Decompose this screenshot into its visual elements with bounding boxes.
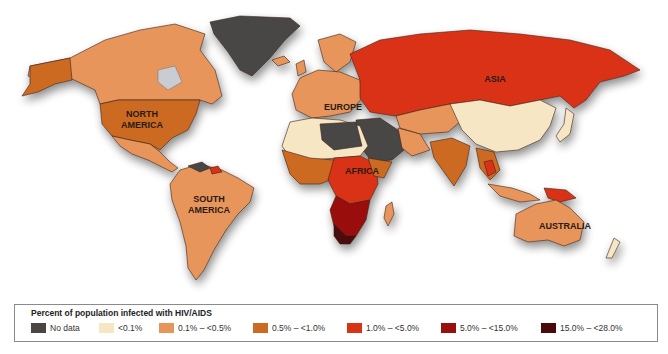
- legend-item-5-0-15-0: 5.0% – <15.0%: [441, 323, 541, 333]
- label-north-america-line2: AMERICA: [121, 120, 163, 130]
- legend-items: No data <0.1% 0.1% – <0.5% 0.5% – <1.0% …: [31, 323, 641, 333]
- papua-region: [544, 188, 576, 202]
- label-south-america-line1: SOUTH: [193, 194, 225, 204]
- legend-item-0-1-0-5: 0.1% – <0.5%: [159, 323, 253, 333]
- scandinavia-region: [318, 34, 356, 72]
- world-map: NORTH AMERICA SOUTH AMERICA EUROPE AFRIC…: [0, 0, 668, 300]
- legend-label: 5.0% – <15.0%: [460, 323, 518, 333]
- iceland-region: [272, 56, 290, 66]
- legend-label: 15.0% – <28.0%: [560, 323, 623, 333]
- map-legend: Percent of population infected with HIV/…: [14, 304, 658, 342]
- legend-label: No data: [50, 323, 80, 333]
- label-australia: AUSTRALIA: [539, 221, 591, 231]
- legend-label: 0.5% – <1.0%: [272, 323, 325, 333]
- label-asia: ASIA: [484, 74, 506, 84]
- label-europe: EUROPE: [324, 102, 362, 112]
- greenland-region: [210, 16, 300, 76]
- legend-label: <0.1%: [118, 323, 142, 333]
- japan-region: [556, 108, 574, 142]
- legend-swatch: [253, 323, 268, 333]
- legend-swatch: [441, 323, 456, 333]
- label-africa: AFRICA: [345, 166, 379, 176]
- legend-label: 0.1% – <0.5%: [178, 323, 231, 333]
- uk-region: [296, 60, 306, 76]
- label-south-america-line2: AMERICA: [188, 205, 230, 215]
- south-america-region: [170, 164, 254, 280]
- madagascar-region: [384, 202, 394, 226]
- legend-swatch: [31, 323, 46, 333]
- legend-title: Percent of population infected with HIV/…: [31, 308, 212, 318]
- legend-item-1-0-5-0: 1.0% – <5.0%: [347, 323, 441, 333]
- label-north-america-line1: NORTH: [126, 109, 158, 119]
- legend-swatch: [347, 323, 362, 333]
- legend-item-lt-0-1: <0.1%: [99, 323, 159, 333]
- new-zealand-region: [606, 238, 620, 258]
- legend-label: 1.0% – <5.0%: [366, 323, 419, 333]
- legend-item-15-0-28-0: 15.0% – <28.0%: [541, 323, 641, 333]
- legend-item-no-data: No data: [31, 323, 99, 333]
- india-region: [430, 138, 470, 186]
- legend-item-0-5-1-0: 0.5% – <1.0%: [253, 323, 347, 333]
- legend-swatch: [159, 323, 174, 333]
- indonesia-region: [488, 184, 540, 202]
- legend-swatch: [99, 323, 114, 333]
- legend-swatch: [541, 323, 556, 333]
